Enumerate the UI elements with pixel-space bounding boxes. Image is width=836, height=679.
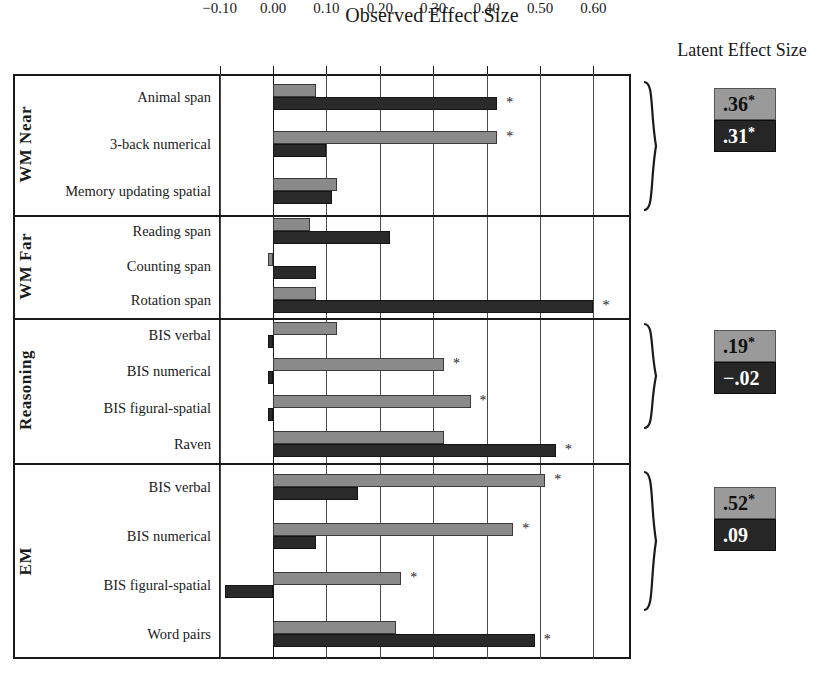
row-label-text: BIS numerical bbox=[14, 528, 219, 545]
latent-effect-size-title: Latent Effect Size bbox=[652, 40, 832, 61]
row-label-text: Counting span bbox=[14, 258, 219, 275]
latent-box-em: .52*.09 bbox=[714, 487, 776, 551]
curly-brace bbox=[640, 470, 666, 612]
x-tick-label: 0.30 bbox=[420, 0, 446, 17]
x-tick-label: 0.20 bbox=[367, 0, 393, 17]
bar-gray-13 bbox=[273, 621, 396, 634]
significance-star: * bbox=[544, 633, 551, 646]
bar-gray-8 bbox=[273, 395, 471, 408]
bar-dark-3 bbox=[273, 231, 390, 244]
significance-star: * bbox=[453, 357, 460, 370]
row-label: BIS figural-spatial bbox=[14, 400, 219, 416]
latent-value-gray: .52* bbox=[714, 487, 776, 519]
bar-gray-3 bbox=[273, 218, 310, 231]
row-label-text: Memory updating spatial bbox=[14, 183, 219, 200]
row-label-text: BIS verbal bbox=[14, 327, 219, 344]
x-tick-mark bbox=[540, 66, 541, 74]
significance-star: * bbox=[554, 473, 561, 486]
bar-gray-11 bbox=[273, 523, 513, 536]
row-label-text: Raven bbox=[14, 436, 219, 453]
latent-value-gray: .19* bbox=[714, 330, 776, 362]
latent-value-dark: −.02 bbox=[714, 362, 776, 394]
x-tick-label: 0.50 bbox=[527, 0, 553, 17]
bar-gray-4 bbox=[268, 253, 273, 266]
bar-gray-10 bbox=[273, 474, 545, 487]
bar-gray-9 bbox=[273, 431, 444, 444]
significance-star: * bbox=[506, 130, 513, 143]
gridline bbox=[487, 74, 488, 659]
group-divider bbox=[13, 463, 631, 465]
bar-dark-13 bbox=[273, 634, 535, 647]
group-divider bbox=[13, 215, 631, 217]
row-label: 3-back numerical bbox=[14, 136, 219, 152]
bar-dark-4 bbox=[273, 266, 316, 279]
bar-dark-6 bbox=[268, 335, 273, 348]
row-label: Reading span bbox=[14, 223, 219, 239]
x-tick-mark bbox=[326, 66, 327, 74]
effect-size-figure: Observed Effect Size Latent Effect Size … bbox=[0, 0, 836, 679]
row-label: BIS figural-spatial bbox=[14, 577, 219, 593]
row-label: Counting span bbox=[14, 258, 219, 274]
latent-box-wm-near: .36*.31* bbox=[714, 88, 776, 152]
row-label: Animal span bbox=[14, 89, 219, 105]
bar-gray-5 bbox=[273, 287, 316, 300]
row-label: BIS numerical bbox=[14, 528, 219, 544]
x-tick-mark bbox=[380, 66, 381, 74]
bar-dark-10 bbox=[273, 487, 358, 500]
gridline bbox=[593, 74, 594, 659]
row-label: BIS verbal bbox=[14, 327, 219, 343]
significance-star: * bbox=[602, 299, 609, 312]
significance-star: * bbox=[480, 394, 487, 407]
bar-dark-12 bbox=[225, 585, 273, 598]
latent-box-reasoning: .19*−.02 bbox=[714, 330, 776, 394]
x-tick-mark bbox=[433, 66, 434, 74]
x-tick-mark bbox=[220, 66, 221, 74]
bar-dark-0 bbox=[273, 97, 497, 110]
x-tick-label: 0.40 bbox=[473, 0, 499, 17]
row-label: Word pairs bbox=[14, 626, 219, 642]
bar-dark-8 bbox=[268, 408, 273, 421]
row-label-text: 3-back numerical bbox=[14, 136, 219, 153]
row-label-text: Rotation span bbox=[14, 292, 219, 309]
row-label-text: BIS verbal bbox=[14, 479, 219, 496]
gridline bbox=[540, 74, 541, 659]
gridline bbox=[220, 74, 221, 659]
x-tick-label: 0.10 bbox=[313, 0, 339, 17]
x-tick-label: 0.00 bbox=[260, 0, 286, 17]
significance-star: * bbox=[410, 571, 417, 584]
significance-star: * bbox=[522, 522, 529, 535]
row-label-text: BIS figural-spatial bbox=[14, 400, 219, 417]
bar-dark-1 bbox=[273, 144, 326, 157]
bar-dark-11 bbox=[273, 536, 316, 549]
bar-gray-2 bbox=[273, 178, 337, 191]
row-label-text: Reading span bbox=[14, 223, 219, 240]
row-label-text: Animal span bbox=[14, 89, 219, 106]
bar-gray-0 bbox=[273, 84, 316, 97]
row-label: BIS numerical bbox=[14, 363, 219, 379]
bar-gray-12 bbox=[273, 572, 401, 585]
x-tick-label: −0.10 bbox=[202, 0, 237, 17]
row-label: Raven bbox=[14, 436, 219, 452]
group-divider bbox=[13, 318, 631, 320]
curly-brace bbox=[640, 80, 666, 212]
latent-value-dark: .31* bbox=[714, 120, 776, 152]
row-label-text: BIS figural-spatial bbox=[14, 577, 219, 594]
group-label-text: EM bbox=[16, 547, 56, 575]
x-tick-mark bbox=[593, 66, 594, 74]
significance-star: * bbox=[506, 96, 513, 109]
row-label: BIS verbal bbox=[14, 479, 219, 495]
x-tick-label: 0.60 bbox=[580, 0, 606, 17]
row-label: Memory updating spatial bbox=[14, 183, 219, 199]
bar-gray-1 bbox=[273, 131, 497, 144]
curly-brace bbox=[640, 322, 666, 430]
bar-dark-5 bbox=[273, 300, 593, 313]
x-tick-mark bbox=[273, 66, 274, 74]
row-label-text: BIS numerical bbox=[14, 363, 219, 380]
bar-gray-6 bbox=[273, 322, 337, 335]
bar-gray-7 bbox=[273, 358, 444, 371]
bar-dark-7 bbox=[268, 371, 273, 384]
row-label: Rotation span bbox=[14, 292, 219, 308]
x-tick-mark bbox=[487, 66, 488, 74]
row-label-text: Word pairs bbox=[14, 626, 219, 643]
bar-dark-9 bbox=[273, 444, 556, 457]
